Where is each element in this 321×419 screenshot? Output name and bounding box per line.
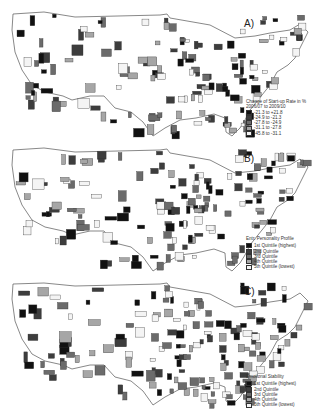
legend-swatch [246, 243, 252, 248]
metro-area [118, 64, 127, 74]
metro-area [204, 90, 212, 94]
metro-area [205, 322, 214, 327]
metro-area [55, 238, 58, 244]
metro-area [126, 357, 132, 367]
legend: Emotional Stability 1st Quintile (highes… [246, 374, 296, 408]
metro-area [269, 83, 278, 89]
metro-area [238, 344, 244, 352]
panel-label: B) [244, 153, 254, 164]
legend-swatch [246, 259, 252, 264]
metro-area [234, 74, 243, 77]
legend-item: -45.8 to -31.1 [246, 131, 306, 136]
metro-area [195, 174, 199, 181]
metro-area [170, 185, 175, 188]
metro-area [171, 49, 178, 52]
metro-area [170, 389, 174, 393]
metro-area [86, 300, 90, 304]
metro-area [29, 305, 37, 314]
metro-area [298, 15, 305, 20]
metro-area [294, 28, 301, 35]
metro-area [72, 45, 83, 56]
metro-area [188, 198, 195, 205]
metro-area [172, 238, 176, 244]
metro-area [208, 400, 216, 404]
metro-area [240, 29, 245, 34]
metro-area [270, 335, 278, 339]
metro-area [150, 255, 158, 258]
metro-area [222, 86, 228, 91]
metro-area [293, 48, 300, 56]
metro-area [235, 184, 242, 191]
metro-area [105, 217, 117, 221]
metro-area [24, 58, 32, 67]
legend-swatch [246, 403, 252, 408]
map-panel-c: C) Emotional Stability 1st Quintile (hig… [0, 280, 321, 419]
metro-area [31, 90, 35, 95]
map-panel-b: B) Entr. Personality Profile 1st Quintil… [0, 140, 321, 280]
legend-swatch [246, 126, 252, 131]
metro-area [246, 200, 253, 203]
metro-area [264, 176, 272, 179]
metro-area [97, 151, 106, 159]
metro-area [194, 208, 202, 212]
legend: Entr. Personality Profile 1st Quintile (… [246, 236, 296, 270]
metro-area [268, 220, 277, 225]
metro-area [178, 96, 185, 102]
legend-swatch [246, 254, 252, 259]
legend-swatch [246, 120, 252, 125]
metro-area [257, 199, 262, 204]
metro-area [261, 298, 267, 306]
metro-area [68, 314, 72, 320]
metro-area [41, 361, 45, 368]
legend-title: Entr. Personality Profile [246, 236, 296, 241]
metro-area [255, 164, 261, 171]
metro-area [136, 328, 145, 338]
metro-area [163, 343, 172, 349]
metro-area [280, 38, 287, 42]
metro-area [135, 312, 146, 317]
metro-area [164, 23, 169, 30]
metro-area [172, 207, 180, 214]
metro-area [39, 39, 43, 48]
metro-area [78, 215, 82, 219]
metro-area [138, 57, 147, 63]
metro-area [282, 295, 286, 303]
metro-area [142, 19, 149, 25]
metro-area [204, 196, 210, 201]
metro-area [128, 112, 131, 118]
metro-area [173, 318, 180, 322]
metro-area [118, 385, 123, 394]
metro-area [282, 286, 286, 290]
metro-area [198, 95, 202, 103]
metro-area [95, 220, 100, 227]
metro-area [79, 182, 89, 186]
metro-area [163, 298, 169, 302]
metro-area [85, 32, 94, 37]
metro-area [201, 394, 208, 402]
metro-area [249, 351, 256, 356]
metro-area [179, 370, 185, 373]
metro-area [50, 295, 61, 299]
metro-area [287, 196, 294, 201]
metro-area [52, 202, 61, 210]
metro-area [62, 155, 66, 165]
metro-area [35, 61, 39, 67]
metro-area [206, 311, 212, 317]
metro-area [65, 58, 73, 62]
legend-swatch [246, 110, 252, 115]
metro-area [260, 352, 266, 355]
metro-area [252, 334, 259, 340]
metro-area [91, 106, 100, 110]
metro-area [210, 378, 215, 382]
metro-area [171, 297, 174, 304]
metro-area [273, 19, 278, 22]
metro-area [137, 172, 143, 181]
metro-area [90, 351, 95, 356]
metro-area [98, 158, 104, 162]
metro-area [167, 374, 171, 380]
metro-area [227, 173, 232, 179]
metro-area [184, 355, 191, 360]
metro-area [28, 334, 38, 340]
metro-area [60, 236, 66, 245]
metro-area [232, 64, 238, 70]
